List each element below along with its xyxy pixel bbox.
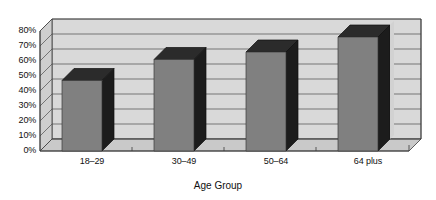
x-tick-label-30-49: 30–49 [144, 156, 224, 166]
bar-column-0 [62, 69, 114, 152]
chart-canvas [0, 0, 436, 200]
bar-chart: 80% 70% 60% 50% 40% 30% 20% 10% 0% 18–29… [0, 0, 436, 200]
y-tick-label-80: 80% [2, 25, 36, 35]
y-tick-label-10: 10% [2, 130, 36, 140]
y-tick-label-60: 60% [2, 55, 36, 65]
x-tick-label-64-plus: 64 plus [328, 156, 408, 166]
x-tick-label-50-64: 50–64 [236, 156, 316, 166]
x-axis-title: Age Group [0, 180, 436, 191]
bar-column-3 [338, 21, 394, 151]
y-tick-label-20: 20% [2, 115, 36, 125]
y-tick-label-50: 50% [2, 70, 36, 80]
x-tick-label-18-29: 18–29 [52, 156, 132, 166]
y-tick-label-30: 30% [2, 100, 36, 110]
bar-column-1 [154, 48, 206, 152]
y-tick-label-70: 70% [2, 40, 36, 50]
y-tick-label-0: 0% [2, 145, 36, 155]
bar-column-2 [246, 40, 298, 151]
y-tick-label-40: 40% [2, 85, 36, 95]
